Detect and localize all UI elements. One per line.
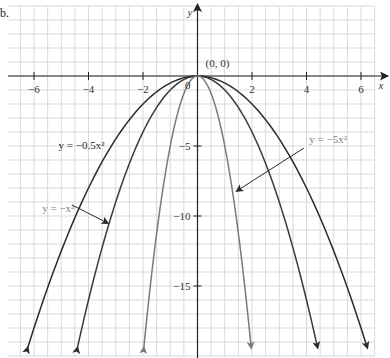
origin-label: 0 <box>185 79 191 91</box>
x-tick-label: −6 <box>28 83 40 95</box>
y-tick-label: −5 <box>179 140 191 152</box>
y-tick-label: −15 <box>173 280 191 292</box>
label-neg-five-x-squared: y = −5x² <box>309 133 347 145</box>
x-axis-label: x <box>378 79 384 91</box>
label-neg-half-x-squared: y = −0.5x² <box>59 139 106 151</box>
y-tick-label: −10 <box>173 210 191 222</box>
x-tick-label: 4 <box>304 83 310 95</box>
arrow-neg-five-x-squared <box>237 148 304 191</box>
label-neg-x-squared: y = −x² <box>42 202 75 214</box>
x-tick-label: −2 <box>137 83 149 95</box>
y-axis-label: y <box>187 6 193 18</box>
x-tick-label: −4 <box>83 83 95 95</box>
parabola-chart: −6−4−2246−5−10−150xy(0, 0)y = −0.5x²y = … <box>0 0 390 358</box>
x-tick-label: 6 <box>358 83 364 95</box>
axes <box>8 4 388 358</box>
x-tick-label: 2 <box>249 83 255 95</box>
labels: −6−4−2246−5−10−150xy(0, 0)y = −0.5x²y = … <box>28 6 383 292</box>
origin-point-label: (0, 0) <box>206 57 230 70</box>
grid <box>8 6 375 356</box>
